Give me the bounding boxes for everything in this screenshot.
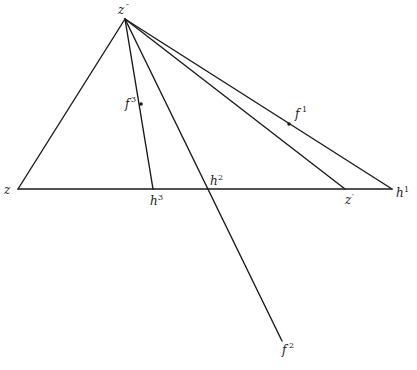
line-zpp-z xyxy=(18,19,125,189)
svg-text:f: f xyxy=(281,343,289,357)
svg-text:h: h xyxy=(210,174,218,188)
label-h3: h 3 xyxy=(150,193,163,208)
label-f2: f 2 xyxy=(281,341,294,357)
label-h2: h 2 xyxy=(210,173,223,188)
svg-text:1: 1 xyxy=(302,105,307,114)
label-f3: f 3 xyxy=(124,95,136,111)
svg-text:2: 2 xyxy=(218,173,223,182)
line-zpp-f2 xyxy=(125,19,282,341)
label-h1: h 1 xyxy=(396,185,409,200)
svg-text:z: z xyxy=(3,183,11,197)
svg-text:1: 1 xyxy=(404,185,409,194)
label-z-double-prime: z ″ xyxy=(117,2,129,17)
label-z-prime: z ′ xyxy=(344,192,354,207)
label-f1: f 1 xyxy=(294,105,307,121)
line-zpp-zprime xyxy=(125,19,345,189)
svg-text:f: f xyxy=(294,107,302,121)
svg-text:h: h xyxy=(396,186,404,200)
svg-text:2: 2 xyxy=(289,341,294,350)
point-f1-marker xyxy=(287,122,291,126)
construction-diagram: z ″ z h 3 h 2 z ′ h 1 f 3 f 1 f 2 xyxy=(0,0,417,370)
line-zpp-h1 xyxy=(125,19,392,189)
svg-text:z: z xyxy=(344,193,352,207)
svg-text:z: z xyxy=(117,3,125,17)
point-f3-marker xyxy=(139,102,143,106)
svg-text:3: 3 xyxy=(131,95,136,104)
svg-text:′: ′ xyxy=(352,192,354,201)
label-z: z xyxy=(3,183,11,197)
svg-text:″: ″ xyxy=(126,2,129,11)
svg-text:3: 3 xyxy=(158,193,163,202)
svg-text:h: h xyxy=(150,194,158,208)
